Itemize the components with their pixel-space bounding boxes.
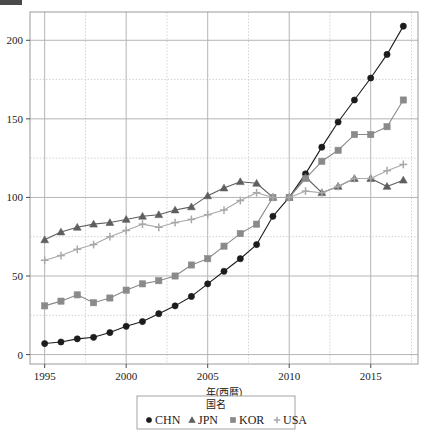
square-marker: [302, 175, 308, 181]
circle-marker: [335, 119, 341, 125]
series-line: [45, 100, 404, 306]
y-tick-label: 0: [18, 349, 24, 361]
circle-marker: [270, 213, 276, 219]
circle-marker: [384, 51, 390, 57]
cropped-header-stub: [0, 0, 22, 5]
plus-marker: [253, 189, 261, 197]
square-marker: [58, 298, 64, 304]
circle-marker: [107, 329, 113, 335]
data-series-layer: [41, 23, 407, 347]
square-marker: [172, 273, 178, 279]
circle-marker: [221, 268, 227, 274]
legend-title: 国名: [206, 398, 226, 410]
y-major-gridlines: [30, 40, 418, 354]
plus-marker: [302, 187, 310, 195]
x-minor-gridlines: [85, 12, 411, 364]
circle-marker: [400, 23, 406, 29]
square-marker: [384, 124, 390, 130]
legend-item-label: JPN: [198, 413, 218, 427]
circle-marker: [139, 318, 145, 324]
plus-marker: [73, 245, 81, 253]
square-marker: [107, 295, 113, 301]
circle-marker: [123, 323, 129, 329]
square-marker: [254, 221, 260, 227]
circle-marker: [90, 334, 96, 340]
plus-marker: [220, 206, 228, 214]
circle-marker: [368, 75, 374, 81]
x-tick-label: 2010: [278, 370, 301, 382]
x-major-gridlines: [45, 12, 371, 364]
circle-marker: [172, 303, 178, 309]
circle-marker: [319, 144, 325, 150]
x-tick-label: 1995: [34, 370, 57, 382]
triangle-marker: [204, 192, 212, 199]
circle-marker: [188, 293, 194, 299]
y-tick-label: 50: [12, 270, 24, 282]
plus-marker: [106, 233, 114, 241]
plus-marker: [171, 219, 179, 227]
square-marker: [237, 230, 243, 236]
square-marker: [156, 278, 162, 284]
legend-item-label: USA: [283, 413, 307, 427]
square-marker: [351, 131, 357, 137]
triangle-marker: [236, 178, 244, 185]
circle-marker: [205, 281, 211, 287]
legend-item-label: CHN: [155, 413, 181, 427]
series-kor: [42, 97, 407, 309]
square-marker: [139, 281, 145, 287]
circle-marker: [254, 241, 260, 247]
square-marker: [335, 147, 341, 153]
y-tick-label: 200: [7, 34, 24, 46]
plus-marker: [122, 227, 130, 235]
plus-marker: [204, 211, 212, 219]
legend: 国名CHNJPNKORUSA: [137, 396, 307, 429]
plus-marker: [399, 161, 407, 169]
circle-marker: [156, 311, 162, 317]
square-marker: [319, 158, 325, 164]
circle-marker: [237, 256, 243, 262]
square-marker: [123, 287, 129, 293]
y-axis-ticks: 050100150200: [7, 34, 31, 360]
plus-marker: [139, 220, 147, 228]
triangle-marker: [188, 203, 196, 210]
square-marker: [400, 97, 406, 103]
plus-marker: [383, 167, 391, 175]
square-marker: [90, 300, 96, 306]
square-marker: [205, 256, 211, 262]
circle-marker: [351, 97, 357, 103]
x-axis-ticks: 19952000200520102015: [34, 364, 383, 382]
plus-marker: [188, 216, 196, 224]
circle-marker: [58, 339, 64, 345]
square-marker: [74, 292, 80, 298]
plus-marker: [90, 241, 98, 249]
square-marker: [230, 417, 235, 422]
x-tick-label: 2000: [115, 370, 138, 382]
x-tick-label: 2005: [197, 370, 220, 382]
line-chart: 050100150200 19952000200520102015 年(西暦) …: [0, 0, 429, 433]
y-tick-label: 150: [7, 113, 24, 125]
square-marker: [188, 262, 194, 268]
legend-item-label: KOR: [239, 413, 264, 427]
chart-figure: 050100150200 19952000200520102015 年(西暦) …: [0, 0, 429, 433]
circle-marker: [42, 340, 48, 346]
circle-marker: [146, 417, 151, 422]
square-marker: [42, 303, 48, 309]
triangle-marker: [399, 176, 407, 183]
y-tick-label: 100: [7, 191, 24, 203]
x-tick-label: 2015: [360, 370, 383, 382]
circle-marker: [74, 336, 80, 342]
square-marker: [221, 243, 227, 249]
plus-marker: [41, 256, 49, 264]
plus-marker: [155, 223, 163, 231]
plus-marker: [57, 252, 65, 260]
square-marker: [368, 131, 374, 137]
